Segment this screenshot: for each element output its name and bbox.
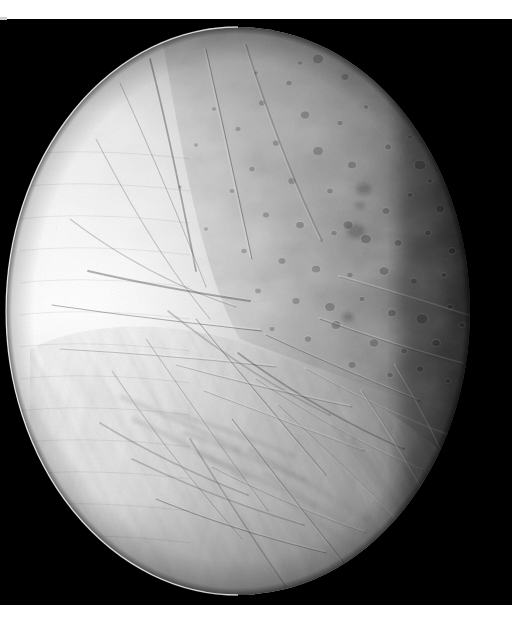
page-margin-top — [0, 0, 523, 19]
corner-artifact — [0, 17, 7, 20]
page-margin-right — [512, 0, 523, 620]
enceladus-disc — [0, 19, 512, 605]
screenshot-root — [0, 0, 523, 620]
spacecraft-photograph — [0, 19, 512, 605]
page-margin-bottom — [0, 605, 523, 620]
